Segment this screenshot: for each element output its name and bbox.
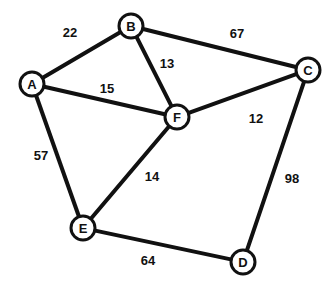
edge-weight-b-f: 13 xyxy=(160,56,174,71)
node-c: C xyxy=(296,58,320,82)
node-label-b: B xyxy=(126,19,135,34)
node-label-f: F xyxy=(173,110,181,125)
node-e: E xyxy=(71,216,95,240)
node-a: A xyxy=(20,72,44,96)
edge-weight-c-d: 98 xyxy=(285,171,299,186)
node-f: F xyxy=(165,105,189,129)
node-label-c: C xyxy=(303,63,313,78)
node-b: B xyxy=(119,14,143,38)
edge-f-c xyxy=(189,74,296,113)
nodes-layer: ABCDEF xyxy=(20,14,320,274)
edge-a-b xyxy=(43,32,120,77)
edge-weight-e-f: 14 xyxy=(145,169,160,184)
graph-canvas: 226713151257149864 ABCDEF xyxy=(0,0,333,290)
edge-weight-b-c: 67 xyxy=(230,26,244,41)
node-label-a: A xyxy=(27,77,37,92)
edge-e-d xyxy=(95,231,231,260)
graph-diagram: 226713151257149864 ABCDEF xyxy=(0,0,333,290)
edge-weight-a-e: 57 xyxy=(34,148,48,163)
edge-weight-a-b: 22 xyxy=(63,25,77,40)
edge-weight-a-f: 15 xyxy=(100,81,114,96)
edge-weight-f-c: 12 xyxy=(249,111,263,126)
node-label-e: E xyxy=(79,221,88,236)
edge-c-d xyxy=(247,82,304,250)
edge-b-f xyxy=(137,37,172,106)
node-label-d: D xyxy=(238,255,247,270)
edge-weight-e-d: 64 xyxy=(141,253,156,268)
node-d: D xyxy=(231,250,255,274)
